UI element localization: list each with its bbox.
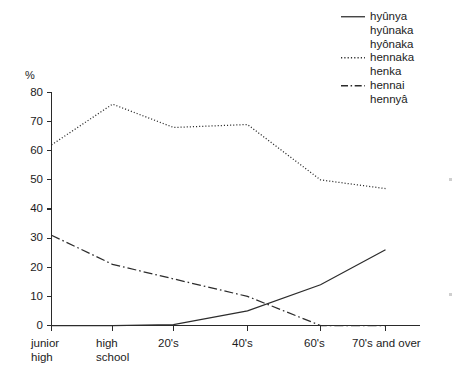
line-chart-plot xyxy=(0,0,454,389)
series-line-hennaka-henka xyxy=(52,104,386,188)
chart-figure: % 80 70 60 50 40 30 20 10 0 junior high … xyxy=(0,0,454,389)
series-line-hyunya-hyunaka-hyonaka xyxy=(52,250,386,326)
y-tick-marks xyxy=(47,93,52,326)
x-tick-marks xyxy=(52,326,386,331)
series-line-hennai-hennya xyxy=(52,235,386,325)
